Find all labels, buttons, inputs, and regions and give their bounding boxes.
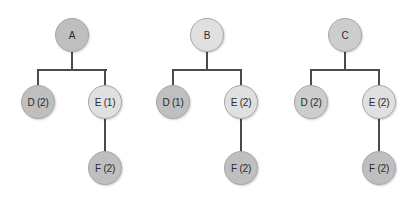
edge-c-left-stem — [310, 69, 312, 86]
edge-b-bar — [172, 69, 242, 71]
edge-b-left-stem — [172, 69, 174, 86]
node-label: E (2) — [231, 97, 252, 108]
edge-a-bar — [37, 69, 107, 71]
edge-c-right-stem — [378, 69, 380, 86]
node-c-f: F (2) — [362, 151, 396, 185]
node-c-root: C — [328, 18, 362, 52]
node-b-e: E (2) — [224, 85, 258, 119]
node-label: A — [69, 30, 75, 41]
edge-a-right-stem — [104, 69, 106, 86]
node-b-f: F (2) — [224, 151, 258, 185]
node-label: C — [341, 30, 348, 41]
tree-diagram: A D (2) E (1) F (2) B D (1) E (2) F (2) — [0, 0, 418, 202]
edge-a-e-f — [104, 118, 106, 152]
node-label: E (1) — [95, 97, 116, 108]
node-label: F (2) — [369, 163, 389, 174]
node-c-d: D (2) — [294, 85, 328, 119]
node-label: F (2) — [95, 163, 115, 174]
edge-a-left-stem — [37, 69, 39, 86]
node-label: F (2) — [231, 163, 251, 174]
node-a-d: D (2) — [21, 85, 55, 119]
node-label: B — [204, 30, 210, 41]
node-c-e: E (2) — [362, 85, 396, 119]
node-a-f: F (2) — [88, 151, 122, 185]
node-b-d: D (1) — [156, 85, 190, 119]
node-a-root: A — [55, 18, 89, 52]
node-b-root: B — [190, 18, 224, 52]
node-label: D (2) — [300, 97, 321, 108]
node-a-e: E (1) — [88, 85, 122, 119]
edge-b-e-f — [240, 118, 242, 152]
edge-c-e-f — [378, 118, 380, 152]
node-label: D (2) — [27, 97, 48, 108]
edge-c-bar — [310, 69, 380, 71]
edge-b-right-stem — [240, 69, 242, 86]
node-label: E (2) — [369, 97, 390, 108]
node-label: D (1) — [162, 97, 183, 108]
